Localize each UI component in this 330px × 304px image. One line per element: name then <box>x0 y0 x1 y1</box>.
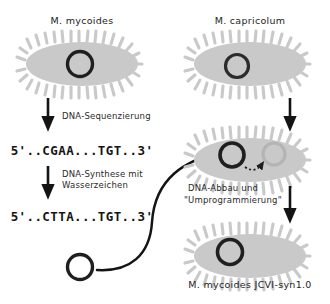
process-label-line1: DNA-Abbau und <box>188 183 258 193</box>
jcvi-syn1-workflow-diagram: M. mycoides <box>0 0 330 304</box>
step-label-sequencing: DNA-Sequenzierung <box>62 111 151 121</box>
left-cell-label: M. mycoides <box>51 15 114 26</box>
process-label-line2: "Umprogrammierung" <box>184 195 282 205</box>
right-cell-label: M. capricolum <box>215 15 286 26</box>
bacterium-cell-icon-capricolum <box>185 31 310 98</box>
result-label: M. mycoides JCVI-syn1.0 <box>188 279 311 290</box>
dna-sequence-watermarked: 5'..CTTA...TGT..3' <box>11 209 154 224</box>
step-label-synthesis-line2: Wasserzeichen <box>62 180 128 190</box>
genome-ring-icon-synthetic <box>68 255 93 280</box>
dna-sequence-original: 5'..CGAA...TGT..3' <box>11 143 154 158</box>
step-label-synthesis-line1: DNA-Synthese mit <box>62 169 143 179</box>
bacterium-cell-icon-mycoides <box>17 31 142 98</box>
